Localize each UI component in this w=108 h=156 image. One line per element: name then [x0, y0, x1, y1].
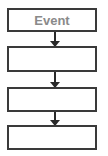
step-box-4: [7, 125, 97, 150]
step-box-3: [7, 87, 97, 112]
step-box-event: Event: [7, 8, 97, 32]
arrow-down-icon: [54, 72, 56, 87]
step-box-2: [7, 46, 97, 72]
step-label: Event: [34, 13, 69, 28]
arrow-down-icon: [54, 32, 56, 46]
arrow-down-icon: [54, 112, 56, 125]
